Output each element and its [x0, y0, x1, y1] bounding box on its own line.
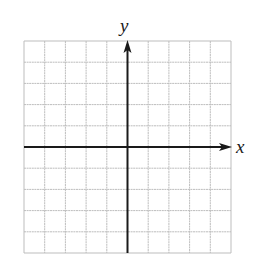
y-axis-label: y: [120, 16, 128, 35]
coordinate-plane: [0, 0, 261, 259]
axes: [24, 40, 232, 253]
x-axis-label: x: [236, 137, 244, 156]
